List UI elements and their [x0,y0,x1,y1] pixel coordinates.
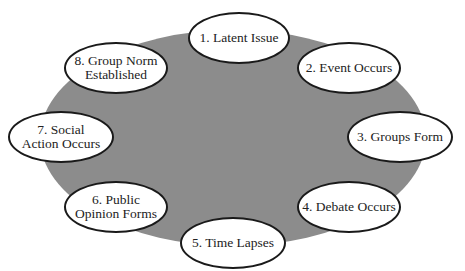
node-groups-form: 3. Groups Form [347,111,453,163]
node-label: 3. Groups Form [357,130,443,144]
node-label: 1. Latent Issue [199,31,278,45]
node-label: 2. Event Occurs [306,61,393,75]
node-label: 8. Group Norm Established [75,54,158,82]
node-label: 7. Social Action Occurs [22,123,100,151]
node-group-norm-established: 8. Group Norm Established [64,42,168,94]
node-social-action-occurs: 7. Social Action Occurs [8,111,114,163]
node-public-opinion-forms: 6. Public Opinion Forms [64,181,168,233]
node-label: 4. Debate Occurs [302,200,395,214]
node-debate-occurs: 4. Debate Occurs [297,181,401,233]
node-time-lapses: 5. Time Lapses [180,217,286,269]
node-label: 6. Public Opinion Forms [75,193,157,221]
node-event-occurs: 2. Event Occurs [297,42,401,94]
node-label: 5. Time Lapses [192,236,274,250]
cycle-diagram: 1. Latent Issue 2. Event Occurs 3. Group… [0,0,465,271]
node-latent-issue: 1. Latent Issue [188,12,290,64]
